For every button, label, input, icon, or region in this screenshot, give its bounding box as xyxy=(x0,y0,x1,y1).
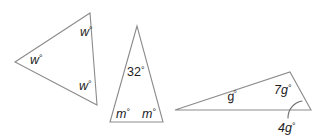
angle-label-w-top: w° xyxy=(80,25,93,39)
angle-label-m-left: m° xyxy=(116,107,130,121)
left-triangle: w° w° w° xyxy=(15,13,97,105)
right-triangle: g° 7g° 4g° xyxy=(175,72,311,135)
angle-label-m-right: m° xyxy=(142,107,156,121)
angle-label-4g-exterior: 4g° xyxy=(278,121,296,135)
middle-triangle: 32° m° m° xyxy=(110,26,163,122)
angle-label-w-left: w° xyxy=(30,53,43,67)
angle-label-g-interior: g° xyxy=(226,88,239,104)
angle-label-w-bottom: w° xyxy=(79,79,92,93)
figure-canvas: w° w° w° 32° m° m° xyxy=(0,0,324,138)
geometry-figure: w° w° w° 32° m° m° xyxy=(0,0,324,138)
angle-label-7g: 7g° xyxy=(274,83,292,97)
angle-label-32-degrees: 32° xyxy=(127,65,145,79)
